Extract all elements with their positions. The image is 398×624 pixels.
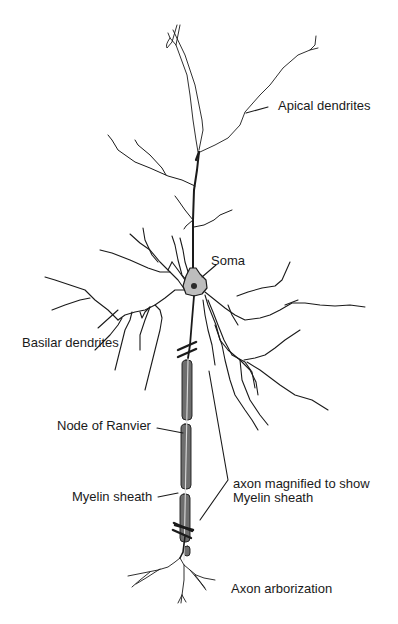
apical-dendrites-branches bbox=[166, 25, 318, 152]
label-axon-magnified-line2: Myelin sheath bbox=[233, 490, 313, 505]
label-basilar-dendrites: Basilar dendrites bbox=[22, 335, 119, 350]
apical-trunk bbox=[193, 152, 199, 268]
leader-node bbox=[157, 428, 183, 433]
neuron-drawing bbox=[0, 0, 398, 624]
nucleus bbox=[191, 283, 197, 289]
leader-basilar bbox=[98, 310, 118, 328]
neuron-diagram: Apical dendrites Soma Basilar dendrites … bbox=[0, 0, 398, 624]
label-node-of-ranvier: Node of Ranvier bbox=[57, 418, 151, 433]
label-myelin-sheath: Myelin sheath bbox=[72, 489, 152, 504]
soma-body bbox=[183, 268, 207, 296]
leader-magnified bbox=[200, 371, 228, 520]
label-axon-arborization: Axon arborization bbox=[231, 581, 332, 596]
axon-initial-segment bbox=[188, 296, 194, 358]
axon-break-top bbox=[178, 342, 196, 357]
leader-apical bbox=[246, 107, 268, 113]
label-soma: Soma bbox=[211, 253, 245, 268]
leader-myelin bbox=[158, 493, 178, 497]
label-axon-magnified-line1: axon magnified to show bbox=[233, 476, 370, 491]
label-apical-dendrites: Apical dendrites bbox=[278, 98, 371, 113]
axon-arborization-branches bbox=[128, 558, 215, 603]
